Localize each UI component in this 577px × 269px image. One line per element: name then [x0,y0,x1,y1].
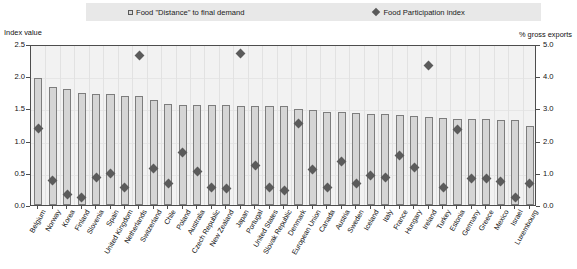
y-axis-right-tick [536,142,540,143]
x-axis-tick [413,206,414,209]
bar-luxembourg [526,126,534,205]
bar-ireland [425,117,433,205]
gridline-vertical [291,46,292,205]
gridline-vertical [190,46,191,205]
legend-item-food-participation: Food Participation index [372,8,464,17]
legend-item-label: Food Participation index [383,8,464,17]
gridline-vertical [204,46,205,205]
x-axis-tick [95,206,96,209]
x-axis-tick [312,206,313,209]
x-axis-tick [341,206,342,209]
x-axis-tick [283,206,284,209]
x-axis-tick [240,206,241,209]
y-axis-right-tick-label: 1.0 [543,169,554,178]
gridline-vertical [118,46,119,205]
bar-korea [63,89,71,205]
gridline-vertical [262,46,263,205]
x-axis-tick [124,206,125,209]
bar-australia [193,105,201,205]
y-axis-left-tick [26,109,30,110]
gridline-vertical [219,46,220,205]
y-axis-right-tick-label: 2.0 [543,137,554,146]
gridline-vertical [335,46,336,205]
y-axis-right-tick [536,109,540,110]
gridline-vertical [176,46,177,205]
y-axis-left-caption: Index value [4,28,42,37]
gridline-vertical [479,46,480,205]
y-axis-right-tick [536,77,540,78]
x-axis-labels: BelgiumNorwayKoreaFinlandSloveniaSpainUn… [0,206,577,269]
bar-switzerland [150,100,158,205]
x-axis-tick [182,206,183,209]
x-axis-tick [399,206,400,209]
y-axis-left-tick [26,142,30,143]
x-axis-tick [66,206,67,209]
gridline-vertical [465,46,466,205]
chart-plot-area [30,45,536,206]
x-axis-tick [384,206,385,209]
bar-netherlands [135,96,143,205]
x-axis-tick [110,206,111,209]
y-axis-right-tick [536,45,540,46]
legend-item-food-distance: Food "Distance" to final demand [128,8,244,17]
gridline-vertical [147,46,148,205]
x-axis-tick [153,206,154,209]
y-axis-left-tick-label: 1.5 [14,104,25,113]
gridline-vertical [74,46,75,205]
marker-japan [236,48,246,58]
x-axis-tick [442,206,443,209]
x-axis-tick [529,206,530,209]
gridline-horizontal [31,78,535,79]
y-axis-right-caption: % gross exports [519,30,572,39]
square-swatch-icon [128,10,133,15]
bar-belgium [34,78,42,205]
x-axis-tick [269,206,270,209]
x-axis-tick [225,206,226,209]
x-axis-tick [211,206,212,209]
y-axis-left-tick [26,77,30,78]
gridline-vertical [407,46,408,205]
gridline-vertical [508,46,509,205]
gridline-vertical [233,46,234,205]
x-axis-tick [37,206,38,209]
bar-japan [237,106,245,205]
bar-finland [78,93,86,205]
y-axis-left-tick-label: 2.5 [14,40,25,49]
gridline-vertical [103,46,104,205]
bar-norway [49,87,57,205]
x-axis-tick [428,206,429,209]
bar-sweden [352,113,360,205]
y-axis-left-tick [26,45,30,46]
gridline-vertical [45,46,46,205]
bar-mexico [497,120,505,205]
gridline-vertical [436,46,437,205]
gridline-vertical [450,46,451,205]
x-axis-tick [254,206,255,209]
legend-item-label: Food "Distance" to final demand [136,8,244,17]
gridline-vertical [89,46,90,205]
gridline-vertical [349,46,350,205]
x-axis-tick [52,206,53,209]
bar-spain [106,94,114,205]
gridline-vertical [421,46,422,205]
diamond-marker-icon [372,8,380,16]
bar-european-union [309,110,317,205]
x-axis-tick [471,206,472,209]
bar-iceland [367,114,375,205]
gridline-vertical [161,46,162,205]
x-axis-tick [81,206,82,209]
y-axis-right-tick-label: 4.0 [543,72,554,81]
gridline-vertical [364,46,365,205]
y-axis-left-tick-label: 0.5 [14,169,25,178]
x-axis-tick [196,206,197,209]
gridline-vertical [132,46,133,205]
bar-italy [381,114,389,205]
gridline-vertical [378,46,379,205]
gridline-vertical [306,46,307,205]
marker-ireland [424,60,434,70]
chart-legend: Food "Distance" to final demand Food Par… [86,3,541,21]
bar-germany [468,119,476,205]
x-axis-tick [500,206,501,209]
bar-slovenia [92,94,100,205]
y-axis-left-tick-label: 2.0 [14,72,25,81]
